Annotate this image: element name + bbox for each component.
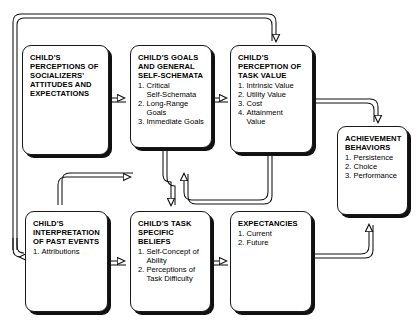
list-item: 3.Performance bbox=[345, 171, 401, 180]
list-item: 4.Attainment Value bbox=[238, 108, 306, 126]
node-perceptions[interactable]: CHILD'S PERCEPTIONS OF SOCIALIZERS' ATTI… bbox=[22, 45, 109, 155]
connector-taskvalue-to-beliefs-outer bbox=[184, 154, 268, 200]
node-interpretation[interactable]: CHILD'S INTERPRETATION OF PAST EVENTS 1.… bbox=[25, 211, 108, 312]
list-item-number: 2. bbox=[138, 265, 147, 274]
list-item-number: 1. bbox=[238, 81, 247, 90]
list-item-label: Future bbox=[247, 238, 269, 247]
list-item-number: 1. bbox=[345, 153, 354, 162]
node-task-value-title: CHILD'S PERCEPTION OF TASK VALUE bbox=[238, 53, 306, 80]
list-item: 3.Cost bbox=[238, 99, 306, 108]
list-item-number: 1. bbox=[33, 247, 42, 256]
list-item-label: Cost bbox=[247, 99, 263, 108]
list-item: 2.Future bbox=[238, 238, 305, 247]
list-item: 1.Current bbox=[238, 229, 305, 238]
list-item: 1.Attributions bbox=[33, 247, 101, 256]
list-item-label: Self-Concept of Ability bbox=[147, 247, 199, 265]
node-task-specific-beliefs[interactable]: CHILD'S TASK SPECIFIC BELIEFS 1.Self-Con… bbox=[130, 211, 211, 312]
flowchart-diagram: CHILD'S PERCEPTIONS OF SOCIALIZERS' ATTI… bbox=[0, 0, 420, 323]
list-item: 2.Perceptions of Task Difficulty bbox=[138, 265, 204, 283]
list-item-label: Choice bbox=[354, 162, 378, 171]
list-item-label: Performance bbox=[354, 171, 397, 180]
node-task-value[interactable]: CHILD'S PERCEPTION OF TASK VALUE 1.Intri… bbox=[230, 45, 313, 153]
node-goals[interactable]: CHILD'S GOALS AND GENERAL SELF-SCHEMATA … bbox=[130, 45, 212, 148]
connector-goals-to-beliefs-outer bbox=[163, 150, 171, 205]
list-item: 2.Long-Range Goals bbox=[138, 99, 205, 117]
list-item-label: Perceptions of Task Difficulty bbox=[147, 265, 196, 283]
list-item-number: 2. bbox=[238, 90, 247, 99]
list-item-label: Immediate Goals bbox=[147, 117, 204, 126]
list-item-number: 3. bbox=[238, 99, 247, 108]
connector-expectancies-to-achievement-inner bbox=[313, 225, 373, 258]
list-item: 1.Critical Self-Schemata bbox=[138, 81, 205, 99]
list-item-label: Attributions bbox=[42, 247, 80, 256]
list-item-number: 3. bbox=[345, 171, 354, 180]
list-item-label: Critical Self-Schemata bbox=[147, 81, 197, 99]
list-item: 2.Choice bbox=[345, 162, 401, 171]
node-task-value-list: 1.Intrinsic Value 2.Utility Value 3.Cost… bbox=[238, 81, 306, 126]
list-item-number: 2. bbox=[345, 162, 354, 171]
node-expectancies[interactable]: EXPECTANCIES 1.Current 2.Future bbox=[230, 211, 312, 312]
list-item-label: Attainment Value bbox=[247, 108, 283, 126]
list-item-number: 2. bbox=[238, 238, 247, 247]
connector-taskvalue-to-achievement-outer bbox=[313, 99, 378, 122]
list-item-label: Utility Value bbox=[247, 90, 287, 99]
node-task-specific-beliefs-title: CHILD'S TASK SPECIFIC BELIEFS bbox=[138, 219, 204, 246]
list-item-number: 2. bbox=[138, 99, 147, 108]
connector-feedback-left-inner bbox=[17, 238, 24, 253]
connector-expectancies-to-achievement-outer bbox=[313, 225, 369, 254]
list-item: 1.Persistence bbox=[345, 153, 401, 162]
node-interpretation-title: CHILD'S INTERPRETATION OF PAST EVENTS bbox=[33, 219, 101, 246]
node-task-specific-beliefs-list: 1.Self-Concept of Ability 2.Perceptions … bbox=[138, 247, 204, 283]
connector-goals-to-beliefs-inner bbox=[167, 150, 175, 205]
list-item-number: 3. bbox=[138, 117, 147, 126]
list-item-label: Persistence bbox=[354, 153, 394, 162]
node-expectancies-list: 1.Current 2.Future bbox=[238, 229, 305, 247]
connector-interpretation-to-goals-inner bbox=[62, 173, 133, 205]
list-item-number: 4. bbox=[238, 108, 247, 117]
node-perceptions-title: CHILD'S PERCEPTIONS OF SOCIALIZERS' ATTI… bbox=[30, 53, 102, 98]
node-goals-title: CHILD'S GOALS AND GENERAL SELF-SCHEMATA bbox=[138, 53, 205, 80]
list-item-label: Current bbox=[247, 229, 272, 238]
list-item: 1.Intrinsic Value bbox=[238, 81, 306, 90]
list-item: 1.Self-Concept of Ability bbox=[138, 247, 204, 265]
list-item: 2.Utility Value bbox=[238, 90, 306, 99]
node-achievement-behaviors[interactable]: ACHIEVEMENT BEHAVIORS 1.Persistence 2.Ch… bbox=[337, 126, 408, 215]
list-item-number: 1. bbox=[238, 229, 247, 238]
node-goals-list: 1.Critical Self-Schemata 2.Long-Range Go… bbox=[138, 81, 205, 126]
list-item: 3.Immediate Goals bbox=[138, 117, 205, 126]
node-achievement-behaviors-list: 1.Persistence 2.Choice 3.Performance bbox=[345, 153, 401, 180]
connector-taskvalue-to-achievement-inner bbox=[313, 103, 374, 122]
connector-feedback-left-outer bbox=[13, 238, 21, 257]
list-item-label: Intrinsic Value bbox=[247, 81, 294, 90]
node-interpretation-list: 1.Attributions bbox=[33, 247, 101, 256]
connector-interpretation-to-goals-outer bbox=[58, 177, 130, 205]
node-achievement-behaviors-title: ACHIEVEMENT BEHAVIORS bbox=[345, 134, 401, 152]
list-item-number: 1. bbox=[138, 81, 147, 90]
list-item-label: Long-Range Goals bbox=[147, 99, 189, 117]
connector-taskvalue-to-beliefs-inner bbox=[188, 154, 272, 204]
list-item-number: 1. bbox=[138, 247, 147, 256]
node-expectancies-title: EXPECTANCIES bbox=[238, 219, 305, 228]
